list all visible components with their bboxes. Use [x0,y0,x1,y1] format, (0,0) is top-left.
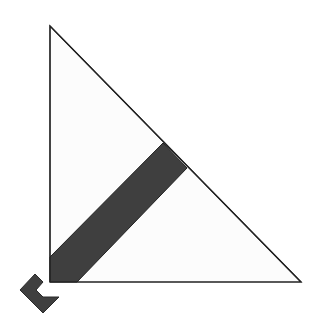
diagram-canvas [0,0,319,332]
